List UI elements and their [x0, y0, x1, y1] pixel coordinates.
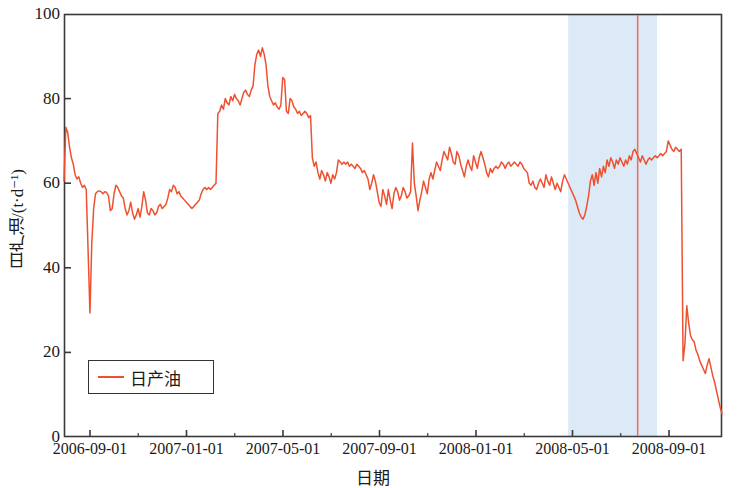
x-tick-label: 2007-09-01	[342, 441, 417, 457]
legend: 日产油	[88, 360, 214, 394]
x-tick-label: 2008-09-01	[632, 441, 707, 457]
x-axis-title: 日期	[0, 464, 746, 488]
chart-figure: 日产油/(t·d⁻¹) 020406080100 2006-09-012007-…	[0, 0, 746, 488]
x-tick-label: 2008-05-01	[535, 441, 610, 457]
x-tick-label: 2007-05-01	[246, 441, 321, 457]
x-tick-label: 2007-01-01	[149, 441, 224, 457]
legend-label-ri-chan-you: 日产油	[130, 365, 181, 390]
legend-swatch-ri-chan-you	[98, 376, 124, 378]
x-tick-label: 2008-01-01	[439, 441, 514, 457]
plot-area	[0, 0, 746, 488]
x-tick-label: 2006-09-01	[53, 441, 128, 457]
shaded-band-annotation	[568, 15, 657, 437]
